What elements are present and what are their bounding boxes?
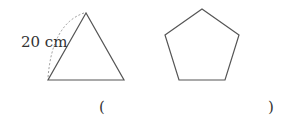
answer-open-paren: (	[99, 98, 105, 116]
side-length-label: 20 cm	[21, 33, 67, 51]
answer-close-paren: )	[268, 98, 274, 116]
regular-pentagon	[165, 9, 239, 80]
figure-canvas	[0, 0, 287, 124]
